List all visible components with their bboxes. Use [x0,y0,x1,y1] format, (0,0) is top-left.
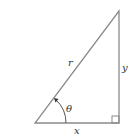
horizontal-leg-label: x [74,125,80,136]
angle-label: θ [66,103,72,114]
vertical-leg-label: y [121,62,128,73]
right-triangle [35,11,119,123]
hypotenuse-label: r [68,57,74,68]
angle-arc [56,100,67,124]
triangle-diagram: r y θ x [0,0,138,140]
right-angle-marker [112,116,119,123]
